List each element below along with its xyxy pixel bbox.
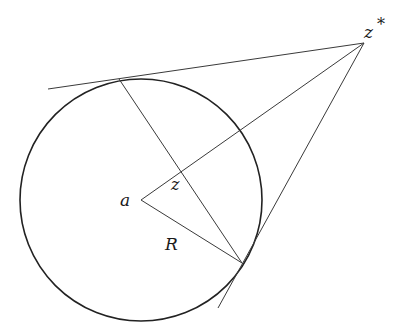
diagram-canvas: a z z * R <box>0 0 406 332</box>
radius-segment <box>141 200 242 263</box>
label-point-z: z <box>170 175 180 194</box>
label-point-zstar: z <box>363 22 374 42</box>
label-star: * <box>377 15 385 34</box>
upper-tangent-line <box>48 43 364 89</box>
chord-of-contact <box>119 79 242 263</box>
label-radius-r: R <box>164 234 178 254</box>
lower-tangent-line <box>218 43 364 308</box>
label-center-a: a <box>120 190 130 210</box>
